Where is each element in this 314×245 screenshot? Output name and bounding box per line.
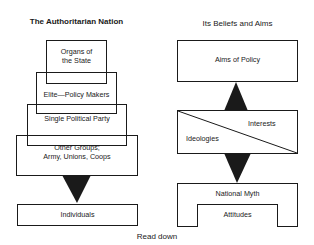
national-myth-box: National Myth Attitudes — [177, 183, 298, 227]
other-groups-label-2: Army, Unions, Coops — [17, 153, 137, 162]
organs-label-2: the State — [47, 57, 106, 66]
aims-of-policy-label: Aims of Policy — [178, 56, 297, 65]
diagonal-divider — [177, 110, 298, 154]
left-title: The Authoritarian Nation — [16, 17, 137, 26]
ideologies-label: Ideologies — [186, 135, 219, 144]
right-up-triangle-icon — [224, 82, 248, 111]
ideologies-interests-box: Ideologies Interests — [177, 110, 298, 154]
individuals-label: Individuals — [18, 211, 137, 220]
right-down-triangle-icon — [224, 153, 251, 183]
level-organs-of-state: Organs of the State — [46, 40, 107, 84]
national-myth-label: National Myth — [178, 190, 297, 199]
left-down-triangle-icon — [62, 175, 91, 203]
elite-label: Elite—Policy Makers — [37, 91, 116, 100]
attitudes-box: Attitudes — [197, 204, 278, 227]
base-individuals: Individuals — [17, 204, 138, 226]
interests-label: Interests — [248, 120, 276, 129]
attitudes-label: Attitudes — [198, 211, 277, 220]
read-down-caption: Read down — [0, 232, 314, 241]
aims-of-policy-box: Aims of Policy — [177, 40, 298, 82]
single-party-label: Single Political Party — [28, 115, 126, 124]
right-title: Its Beliefs and Aims — [177, 19, 298, 28]
